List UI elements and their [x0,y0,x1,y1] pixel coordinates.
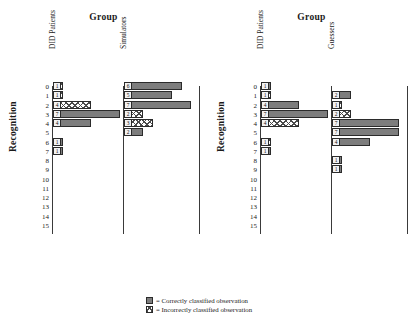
chart-legend: = Correctly classified observation = Inc… [146,296,252,314]
axis-line-2-right [407,86,408,234]
y-tick-label: 6 [38,139,49,148]
y-tick-label: 9 [246,166,257,175]
bar: 1 [261,91,271,99]
panel-title-right: Group [208,12,415,22]
y-tick-label: 7 [38,148,49,157]
bar-count-label: 7 [333,120,340,126]
y-tick-label: 7 [246,148,257,157]
y-tick-label: 2 [38,102,49,111]
bar-count-label: 2 [125,129,132,135]
y-tick-label: 11 [246,185,257,194]
bar-count-label: 4 [333,139,340,145]
bar: 1 [53,138,63,146]
bar: 1 [53,147,63,155]
y-axis-title-left: Recognition [8,101,18,152]
legend-label-incorrect: = Incorrectly classified observation [156,305,252,314]
chart-panel-left: Group Recognition 0123456789101112131415… [0,0,207,285]
y-tick-label: 11 [38,185,49,194]
y-tick-label: 2 [246,102,257,111]
bar: 4 [53,101,91,109]
bar: 1 [332,101,342,109]
bar-count-label: 1 [54,92,61,98]
bar-count-label: 7 [125,102,132,108]
bar-count-label: 1 [262,92,269,98]
y-tick-label: 6 [246,139,257,148]
y-tick-label: 13 [246,203,257,212]
y-tick-label: 13 [38,203,49,212]
bar-count-label: 1 [262,83,269,89]
y-tick-label: 4 [38,120,49,129]
bar: 7 [53,110,120,118]
bar-count-label: 3 [125,120,132,126]
bar-count-label: 1 [262,139,269,145]
bar: 6 [124,82,182,90]
bar-count-label: 6 [125,83,132,89]
bar-count-label: 7 [333,129,340,135]
plot-area-right: 0123456789101112131415114741121277411 [260,86,408,234]
bar: 2 [124,128,143,136]
y-tick-label: 1 [38,92,49,101]
y-tick-label: 0 [38,83,49,92]
bar: 1 [332,165,342,173]
plot-area-left: 01234567891011121314151147411657232 [52,86,200,234]
y-tick-label: 8 [246,157,257,166]
legend-label-correct: = Correctly classified observation [156,296,248,305]
y-tick-label: 1 [246,92,257,101]
bar: 1 [261,82,271,90]
bar: 2 [332,110,351,118]
y-tick-label: 15 [246,222,257,231]
y-tick-label: 5 [246,129,257,138]
bar: 1 [261,138,271,146]
bar-count-label: 4 [54,102,61,108]
bar-count-label: 1 [54,83,61,89]
bar-count-label: 2 [333,92,340,98]
bar-count-label: 2 [125,111,132,117]
bar: 4 [261,119,299,127]
bar-count-label: 4 [262,120,269,126]
bar: 1 [332,156,342,164]
bar: 7 [332,128,399,136]
bar-count-label: 1 [54,148,61,154]
y-tick-label: 9 [38,166,49,175]
bar: 1 [53,82,63,90]
panel-title-left: Group [0,12,207,22]
legend-swatch-correct-icon [146,297,153,304]
bar: 4 [53,119,91,127]
y-tick-label: 12 [246,194,257,203]
y-axis-title-right: Recognition [216,101,226,152]
bar-count-label: 1 [262,148,269,154]
y-tick-label: 3 [38,111,49,120]
y-tick-label: 5 [38,129,49,138]
bar: 2 [124,110,143,118]
bar-count-label: 5 [125,92,132,98]
y-tick-label: 4 [246,120,257,129]
group-label-guessers: Guessers [327,22,336,49]
bar: 2 [332,91,351,99]
chart-panel-right: Group Recognition 0123456789101112131415… [208,0,415,285]
bar: 4 [332,138,370,146]
group-label-did-patients: DID Patients [48,10,57,49]
bar: 5 [124,91,172,99]
y-tick-label: 14 [246,213,257,222]
bar: 1 [53,91,63,99]
bar-count-label: 4 [262,102,269,108]
bar: 7 [332,119,399,127]
bar-count-label: 7 [54,111,61,117]
bar: 7 [124,101,191,109]
y-tick-label: 12 [38,194,49,203]
y-tick-label: 10 [38,176,49,185]
axis-line-2-left [199,86,200,234]
y-tick-label: 8 [38,157,49,166]
y-tick-label: 0 [246,83,257,92]
bar-count-label: 1 [333,157,340,163]
bar-count-label: 7 [262,111,269,117]
bar: 3 [124,119,153,127]
bar-count-label: 2 [333,111,340,117]
bar: 7 [261,110,328,118]
y-tick-label: 3 [246,111,257,120]
y-tick-label: 14 [38,213,49,222]
legend-item-incorrect: = Incorrectly classified observation [146,305,252,314]
y-tick-label: 15 [38,222,49,231]
group-label-simulators: Simulators [119,16,128,49]
legend-swatch-incorrect-icon [146,306,153,313]
